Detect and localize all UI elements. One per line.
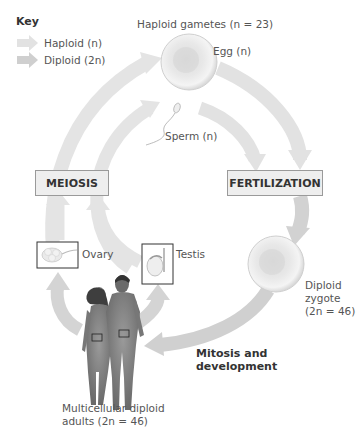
- man-figure-icon: [106, 275, 144, 410]
- testis-inset-icon: [142, 244, 173, 284]
- egg-label: Egg (n): [213, 45, 251, 57]
- ovary-label: Ovary: [82, 248, 113, 260]
- key-diploid-arrow-icon: [17, 52, 38, 68]
- key-diploid-label: Diploid (2n): [44, 54, 105, 66]
- diploid-arrow-fertilization-zygote: [286, 196, 310, 246]
- gametes-label: Haploid gametes (n = 23): [137, 18, 273, 30]
- ovary-inset-icon: [37, 242, 78, 268]
- egg-cell-icon: [161, 34, 217, 90]
- mitosis-label-line2: development: [196, 360, 277, 373]
- mitosis-label: Mitosis and development: [196, 347, 277, 373]
- diploid-arrow-to-ovary: [46, 272, 80, 330]
- mitosis-label-line1: Mitosis and: [196, 347, 277, 360]
- zygote-label-line3: (2n = 46): [305, 305, 355, 318]
- adults-label: Multicellular diploid adults (2n = 46): [62, 402, 165, 428]
- zygote-label: Diploid zygote (2n = 46): [305, 279, 355, 318]
- testis-label: Testis: [176, 248, 205, 260]
- key-haploid-arrow-icon: [17, 35, 38, 51]
- key-haploid-label: Haploid (n): [44, 37, 102, 49]
- meiosis-box: MEIOSIS: [35, 170, 109, 196]
- fertilization-box: FERTILIZATION: [227, 170, 323, 196]
- meiosis-label: MEIOSIS: [46, 177, 98, 190]
- sperm-label: Sperm (n): [165, 130, 217, 142]
- zygote-label-line1: Diploid: [305, 279, 355, 292]
- zygote-label-line2: zygote: [305, 292, 355, 305]
- fertilization-label: FERTILIZATION: [229, 177, 321, 190]
- key-title: Key: [16, 15, 39, 28]
- zygote-cell-icon: [248, 236, 304, 292]
- woman-figure-icon: [82, 287, 112, 405]
- adults-label-line2: adults (2n = 46): [62, 415, 165, 428]
- adults-label-line1: Multicellular diploid: [62, 402, 165, 415]
